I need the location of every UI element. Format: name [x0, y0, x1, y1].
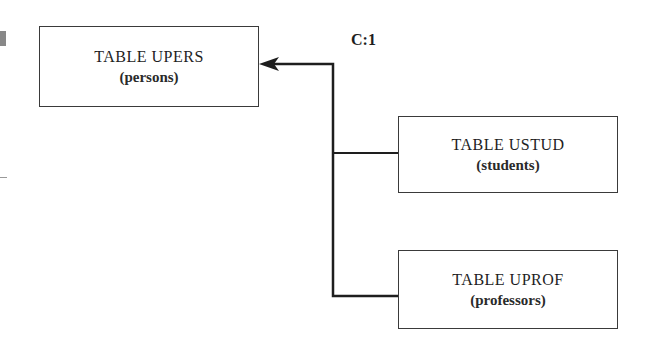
table-upers-subtitle: (persons)	[119, 67, 178, 87]
table-ustud-box: TABLE USTUD (students)	[398, 116, 618, 193]
table-uprof-subtitle: (professors)	[470, 290, 546, 310]
table-ustud-subtitle: (students)	[476, 155, 539, 175]
cardinality-label: C:1	[351, 31, 376, 49]
table-uprof-box: TABLE UPROF (professors)	[398, 250, 618, 329]
table-uprof-title: TABLE UPROF	[452, 270, 563, 290]
table-ustud-title: TABLE USTUD	[451, 135, 564, 155]
table-upers-title: TABLE UPERS	[94, 47, 204, 67]
table-upers-box: TABLE UPERS (persons)	[39, 26, 259, 107]
